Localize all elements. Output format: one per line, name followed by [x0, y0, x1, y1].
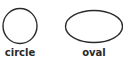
circle-icon: [3, 9, 37, 44]
oval-label: oval: [74, 47, 114, 59]
circle-label: circle: [0, 47, 40, 59]
oval-icon: [66, 11, 123, 43]
